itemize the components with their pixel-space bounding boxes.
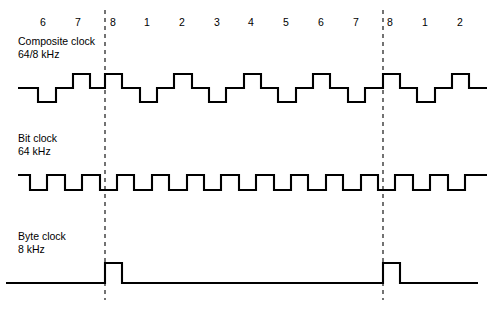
bit-number: 7 xyxy=(75,16,81,28)
bit-clock-label-name: Bit clock xyxy=(18,132,58,144)
composite-clock-waveform xyxy=(18,74,487,102)
byte-clock-label-frequency: 8 kHz xyxy=(18,243,45,255)
timing-diagram-canvas: 6 7 8 1 2 3 4 5 6 7 8 1 2 Composite cloc… xyxy=(0,0,502,314)
bit-number: 2 xyxy=(179,16,185,28)
bit-clock-label-frequency: 64 kHz xyxy=(18,145,51,157)
bit-clock-waveform xyxy=(18,175,487,190)
byte-boundary-markers xyxy=(105,10,383,300)
timing-diagram: 6 7 8 1 2 3 4 5 6 7 8 1 2 Composite cloc… xyxy=(0,0,502,314)
composite-clock-label-frequency: 64/8 kHz xyxy=(18,48,59,60)
bit-number: 5 xyxy=(283,16,289,28)
bit-number-row: 6 7 8 1 2 3 4 5 6 7 8 1 2 xyxy=(40,16,463,28)
bit-number: 3 xyxy=(214,16,220,28)
byte-clock-waveform xyxy=(6,263,478,283)
bit-number: 2 xyxy=(457,16,463,28)
bit-number: 1 xyxy=(422,16,428,28)
bit-number: 8 xyxy=(110,16,116,28)
composite-clock-label-name: Composite clock xyxy=(18,35,96,47)
bit-number: 6 xyxy=(318,16,324,28)
signal-composite-clock: Composite clock 64/8 kHz xyxy=(18,35,487,102)
bit-number: 6 xyxy=(40,16,46,28)
signal-byte-clock: Byte clock 8 kHz xyxy=(6,230,478,283)
bit-number: 8 xyxy=(387,16,393,28)
bit-number: 4 xyxy=(248,16,254,28)
bit-number: 1 xyxy=(144,16,150,28)
signal-bit-clock: Bit clock 64 kHz xyxy=(18,132,487,190)
byte-clock-label-name: Byte clock xyxy=(18,230,67,242)
bit-number: 7 xyxy=(353,16,359,28)
